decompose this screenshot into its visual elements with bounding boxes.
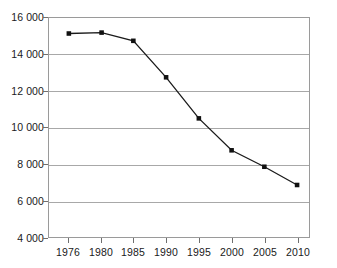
data-point-marker xyxy=(99,30,104,35)
y-axis-tick-label: 4 000 xyxy=(0,233,44,243)
y-axis: 16 000 14 000 12 000 10 000 8 000 6 000 … xyxy=(0,0,44,268)
y-axis-tick-label: 10 000 xyxy=(0,122,44,132)
data-point-marker xyxy=(197,116,202,121)
x-axis-tick-label: 2010 xyxy=(278,247,318,258)
data-point-marker xyxy=(67,31,72,36)
line-chart: 16 000 14 000 12 000 10 000 8 000 6 000 … xyxy=(0,0,337,268)
x-axis-tick-mark xyxy=(298,238,299,243)
series-line xyxy=(69,33,297,185)
x-axis-tick-mark xyxy=(199,238,200,243)
series-line-group xyxy=(49,18,309,237)
y-axis-tick-mark xyxy=(43,238,48,239)
series-markers xyxy=(67,30,300,187)
data-point-marker xyxy=(262,164,267,169)
data-point-marker xyxy=(229,148,234,153)
data-point-marker xyxy=(131,39,136,44)
data-point-marker xyxy=(164,75,169,80)
y-axis-tick-label: 6 000 xyxy=(0,196,44,206)
x-axis-tick-mark xyxy=(133,238,134,243)
plot-area xyxy=(48,17,310,238)
x-axis-tick-mark xyxy=(265,238,266,243)
y-axis-tick-label: 14 000 xyxy=(0,49,44,59)
y-axis-tick-label: 16 000 xyxy=(0,12,44,22)
data-point-marker xyxy=(295,183,300,188)
x-axis-tick-mark xyxy=(101,238,102,243)
x-axis-tick-mark xyxy=(166,238,167,243)
y-axis-tick-label: 12 000 xyxy=(0,86,44,96)
y-axis-tick-label: 8 000 xyxy=(0,159,44,169)
x-axis-tick-mark xyxy=(232,238,233,243)
x-axis-tick-mark xyxy=(68,238,69,243)
